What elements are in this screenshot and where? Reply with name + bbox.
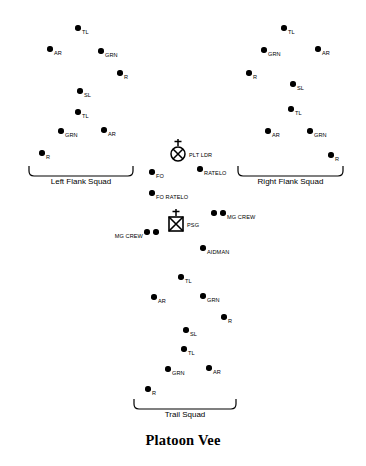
unit-label: PLT LDR: [189, 152, 212, 158]
trail-squad-caption: Trail Squad: [133, 410, 237, 420]
node-label: AR: [322, 50, 330, 56]
node-label: MG CREW: [115, 233, 143, 239]
soldier-dot-icon: [328, 152, 333, 157]
soldier-dot-icon: [98, 48, 103, 53]
soldier-dot-icon: [75, 109, 80, 114]
node-label: SL: [84, 92, 91, 98]
soldier-dot-icon: [101, 127, 106, 132]
soldier-dot-icon: [117, 70, 122, 75]
node-label: R: [152, 390, 156, 396]
soldier-dot-icon: [200, 293, 205, 298]
node-label: FO: [156, 173, 164, 179]
soldier-dot-icon: [288, 106, 293, 111]
node-label: TL: [185, 278, 192, 284]
node-label: R: [228, 318, 232, 324]
node-label: TL: [188, 350, 195, 356]
soldier-dot-icon: [206, 365, 211, 370]
unit-label: PSG: [187, 222, 199, 228]
node-label: SL: [190, 331, 197, 337]
soldier-dot-icon: [153, 229, 158, 234]
soldier-dot-icon: [290, 81, 295, 86]
node-label: R: [124, 74, 128, 80]
node-label: AR: [108, 131, 116, 137]
soldier-dot-icon: [183, 327, 188, 332]
right-flank-squad-bracket: Right Flank Squad: [237, 166, 344, 178]
soldier-dot-icon: [221, 314, 226, 319]
soldier-dot-icon: [145, 386, 150, 391]
soldier-dot-icon: [281, 25, 286, 30]
soldier-dot-icon: [58, 128, 63, 133]
soldier-dot-icon: [75, 25, 80, 30]
node-label: GRN: [207, 297, 220, 303]
node-label: MG CREW: [227, 214, 255, 220]
node-label: AIDMAN: [207, 249, 229, 255]
soldier-dot-icon: [165, 366, 170, 371]
trail-squad-bracket: Trail Squad: [133, 399, 237, 411]
node-label: AR: [158, 298, 166, 304]
node-label: R: [46, 154, 50, 160]
node-label: GRN: [172, 370, 185, 376]
soldier-dot-icon: [220, 210, 225, 215]
soldier-dot-icon: [149, 169, 154, 174]
node-label: TL: [288, 29, 295, 35]
node-label: TL: [295, 110, 302, 116]
soldier-dot-icon: [144, 229, 149, 234]
left-flank-squad-caption: Left Flank Squad: [28, 177, 134, 187]
circle-x-antenna-icon: [167, 138, 189, 164]
soldier-dot-icon: [39, 150, 44, 155]
soldier-dot-icon: [178, 274, 183, 279]
soldier-dot-icon: [149, 190, 154, 195]
node-label: GRN: [314, 132, 327, 138]
left-flank-squad-bracket: Left Flank Squad: [28, 166, 134, 178]
square-x-antenna-icon: [165, 208, 187, 234]
soldier-dot-icon: [181, 346, 186, 351]
soldier-dot-icon: [307, 128, 312, 133]
soldier-dot-icon: [151, 294, 156, 299]
soldier-dot-icon: [246, 70, 251, 75]
soldier-dot-icon: [200, 245, 205, 250]
node-label: TL: [82, 29, 89, 35]
soldier-dot-icon: [211, 210, 216, 215]
node-label: AR: [272, 132, 280, 138]
node-label: GRN: [105, 52, 118, 58]
node-label: FO RATELO: [156, 194, 188, 200]
node-label: RATELO: [204, 170, 227, 176]
soldier-dot-icon: [265, 128, 270, 133]
node-label: R: [253, 74, 257, 80]
node-label: TL: [82, 113, 89, 119]
node-label: SL: [297, 85, 304, 91]
node-label: AR: [54, 50, 62, 56]
node-label: R: [335, 156, 339, 162]
soldier-dot-icon: [77, 88, 82, 93]
node-label: AR: [213, 369, 221, 375]
soldier-dot-icon: [261, 47, 266, 52]
soldier-dot-icon: [47, 46, 52, 51]
platoon-vee-diagram: TLARGRNRSLTLGRNARRLeft Flank SquadTLGRNA…: [0, 0, 366, 466]
right-flank-squad-caption: Right Flank Squad: [237, 177, 344, 187]
soldier-dot-icon: [315, 46, 320, 51]
soldier-dot-icon: [197, 166, 202, 171]
node-label: GRN: [268, 51, 281, 57]
node-label: GRN: [65, 132, 78, 138]
diagram-title: Platoon Vee: [0, 432, 366, 449]
